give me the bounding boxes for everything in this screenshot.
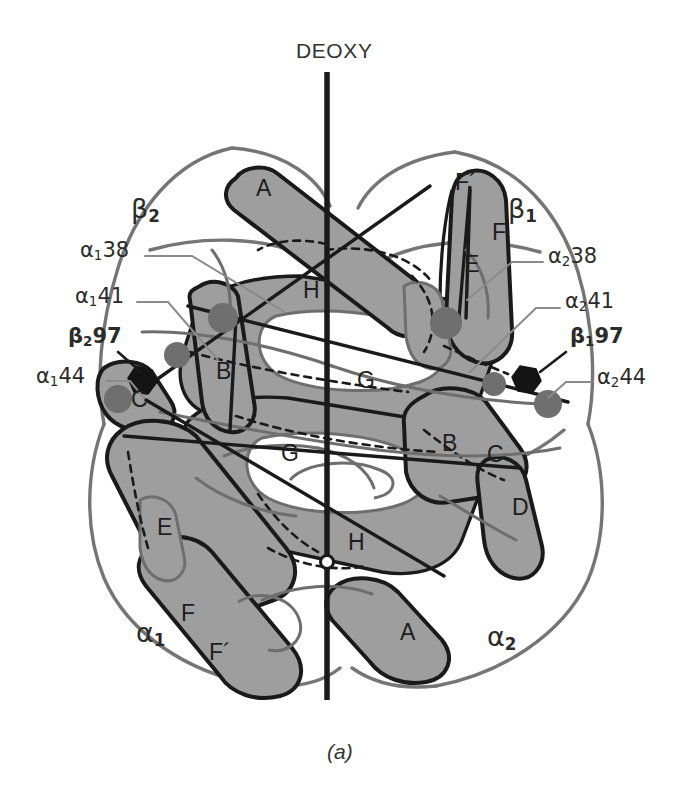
- heme-marker: [104, 385, 132, 413]
- chain-label-beta1-sub: 1: [525, 206, 537, 226]
- helix-label-alpha-H-lower: H: [348, 531, 365, 554]
- chain-label-beta1-base: β: [508, 193, 525, 224]
- chain-label-beta2: β2: [131, 195, 160, 224]
- helix-label-alpha2-A: A: [400, 621, 415, 644]
- residue-beta2-97-base: β: [68, 324, 83, 348]
- residue-label-alpha2-41: α241: [565, 291, 614, 313]
- hemoglobin-structure-diagram: [0, 0, 694, 803]
- chain-label-alpha1: α1: [136, 619, 165, 648]
- residue-beta1-97-base: β: [570, 324, 585, 348]
- residue-alpha2-38-num: 38: [570, 244, 597, 268]
- heme-marker: [482, 372, 506, 396]
- chain-label-beta2-base: β: [131, 193, 148, 224]
- residue-alpha1-41-num: 41: [97, 284, 124, 308]
- residue-label-alpha2-44: α244: [597, 367, 646, 389]
- helix-label-beta2-B: B: [216, 360, 231, 383]
- helix-label-beta1-F-prime: F´: [455, 171, 477, 194]
- helix-label-beta1-E: E: [464, 253, 479, 276]
- alpha2-helix-A: [326, 578, 449, 683]
- residue-alpha1-44-base: α: [36, 364, 50, 388]
- figure-caption: (a): [327, 741, 353, 762]
- leader-beta1-97: [540, 352, 566, 372]
- helix-label-alpha-G-upper: G: [357, 369, 375, 392]
- chain-label-alpha1-base: α: [136, 617, 154, 648]
- chain-label-alpha2: α2: [487, 623, 516, 652]
- helix-label-alpha1-F-prime: F´: [209, 641, 231, 664]
- heme-marker: [164, 342, 190, 368]
- helix-label-beta2-A: A: [256, 177, 271, 200]
- helix-label-beta1-F: F: [492, 221, 506, 244]
- residue-alpha2-38-base: α: [548, 244, 562, 268]
- heme-marker: [208, 303, 238, 333]
- helix-label-beta1-C: C: [487, 443, 504, 466]
- residue-alpha1-41-base: α: [75, 284, 89, 308]
- residue-alpha1-44-num: 44: [58, 364, 85, 388]
- beta1-97-marker: [512, 366, 541, 393]
- residue-label-alpha1-44: α144: [36, 366, 85, 388]
- residue-alpha1-38-num: 38: [102, 238, 129, 262]
- hemoglobin-deoxy-figure: DEOXY β2 β1 α1 α2 α138 α141 β297 α144 α2…: [0, 0, 694, 803]
- chain-label-alpha1-sub: 1: [154, 630, 166, 650]
- heme-marker: [534, 390, 562, 418]
- heme-marker: [430, 307, 462, 339]
- chain-label-alpha2-base: α: [487, 621, 505, 652]
- helix-label-alpha-H-upper: H: [303, 279, 320, 302]
- beta1-helix-D: [477, 457, 542, 578]
- residue-beta1-97-num: 97: [594, 324, 623, 348]
- chain-label-alpha2-sub: 2: [505, 634, 517, 654]
- helix-label-beta1-D: D: [512, 496, 529, 519]
- dyad-axis-center-point: [321, 556, 334, 569]
- residue-label-beta2-97: β297: [68, 326, 122, 348]
- helix-label-alpha1-E: E: [157, 516, 172, 539]
- chain-label-beta2-sub: 2: [148, 206, 160, 226]
- residue-label-alpha1-41: α141: [75, 286, 124, 308]
- residue-label-beta1-97: β197: [570, 326, 624, 348]
- chain-label-beta1: β1: [508, 195, 537, 224]
- helix-label-alpha-G-lower: G: [281, 442, 299, 465]
- helix-label-beta2-C: C: [131, 388, 148, 411]
- residue-alpha2-41-num: 41: [587, 289, 614, 313]
- helix-label-alpha1-F: F: [181, 602, 195, 625]
- residue-alpha2-44-base: α: [597, 365, 611, 389]
- figure-title: DEOXY: [296, 40, 373, 61]
- residue-alpha1-38-base: α: [80, 238, 94, 262]
- residue-label-alpha1-38: α138: [80, 240, 129, 262]
- residue-label-alpha2-38: α238: [548, 246, 597, 268]
- residue-beta2-97-sub: 2: [83, 334, 92, 349]
- residue-beta2-97-num: 97: [92, 324, 121, 348]
- residue-alpha2-41-base: α: [565, 289, 579, 313]
- helix-label-beta1-B: B: [442, 432, 457, 455]
- residue-beta1-97-sub: 1: [585, 334, 594, 349]
- residue-alpha2-44-num: 44: [619, 365, 646, 389]
